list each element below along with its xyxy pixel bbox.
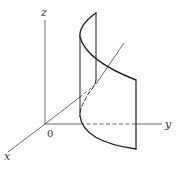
cylindrical-surface — [80, 13, 136, 149]
origin-label: 0 — [47, 128, 53, 139]
diagonal-axis-front — [45, 97, 80, 124]
axes — [8, 20, 162, 152]
surface-diagram: z y x 0 — [0, 0, 179, 176]
hidden-curve — [80, 80, 96, 114]
y-axis-label: y — [164, 118, 172, 131]
top-curve — [80, 13, 136, 80]
z-axis-label: z — [40, 6, 47, 19]
x-axis-label: x — [4, 150, 11, 163]
diagonal-axis-behind — [96, 43, 124, 84]
bottom-curve — [80, 116, 136, 149]
x-axis — [8, 124, 45, 152]
